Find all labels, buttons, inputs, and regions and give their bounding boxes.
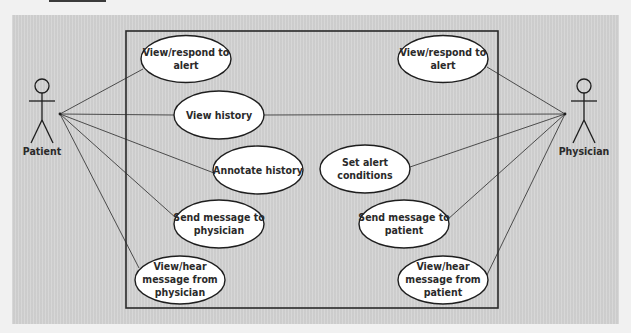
actor-physician[interactable]: Physician [559, 79, 610, 157]
use-case-diagram: Patient Physician View/respond to alert … [0, 0, 631, 333]
actor-label-physician: Physician [559, 145, 610, 157]
assoc-patient-view-hear-message [60, 114, 139, 268]
diagram-stage: Patient Physician View/respond to alert … [0, 0, 631, 333]
actor-label-patient: Patient [23, 145, 62, 157]
actor-patient[interactable]: Patient [23, 79, 62, 157]
use-case-send-message-to-patient[interactable]: Send message to patient [358, 200, 450, 248]
use-case-physician-view-respond-alert[interactable]: View/respond to alert [398, 36, 488, 83]
use-case-view-hear-message-from-patient[interactable]: View/hear message from patient [398, 256, 488, 304]
use-case-label-line: physician [155, 286, 205, 298]
assoc-physician-set-alert [410, 114, 565, 167]
use-case-label-line: Send message to [358, 211, 450, 223]
use-case-label-line: View/respond to [143, 46, 230, 58]
use-case-annotate-history[interactable]: Annotate history [213, 146, 303, 194]
use-case-patient-view-respond-alert[interactable]: View/respond to alert [141, 36, 231, 83]
use-case-label-line: patient [424, 286, 463, 298]
use-case-send-message-to-physician[interactable]: Send message to physician [173, 200, 265, 248]
actor-head-icon [577, 79, 591, 93]
use-case-label-line: Set alert [342, 156, 389, 168]
use-case-label-line: conditions [337, 169, 393, 181]
use-case-label-line: patient [385, 224, 424, 236]
use-case-label-line: View/hear [416, 260, 469, 272]
use-case-label-line: View/hear [153, 260, 206, 272]
use-case-label-line: View/respond to [400, 46, 487, 58]
use-case-view-history[interactable]: View history [174, 91, 264, 139]
use-case-label-line: Annotate history [213, 164, 303, 176]
use-case-label-line: alert [173, 59, 199, 71]
associations [60, 67, 565, 277]
use-case-set-alert-conditions[interactable]: Set alert conditions [320, 145, 410, 193]
assoc-patient-view-respond-alert [60, 69, 143, 114]
use-case-view-hear-message-from-physician[interactable]: View/hear message from physician [135, 256, 225, 304]
use-case-label-line: message from [142, 273, 218, 285]
assoc-physician-send-message [447, 114, 565, 220]
use-case-label-line: physician [194, 224, 244, 236]
use-case-label-line: message from [405, 273, 481, 285]
assoc-physician-view-history [264, 114, 565, 115]
assoc-patient-view-history [60, 114, 174, 115]
physician-connection-node [564, 113, 567, 116]
use-case-label-line: Send message to [173, 211, 265, 223]
use-case-label-line: View history [186, 109, 252, 121]
actor-head-icon [35, 79, 49, 93]
patient-connection-node [59, 113, 62, 116]
assoc-patient-send-message [60, 114, 176, 218]
use-case-label-line: alert [430, 59, 456, 71]
